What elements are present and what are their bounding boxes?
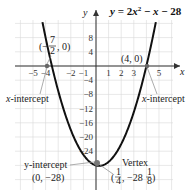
frac-num: 7 [50, 34, 55, 45]
vertex-point-close: ) [152, 172, 155, 184]
left-intercept-point: (− [39, 41, 48, 53]
svg-text:−8: −8 [83, 89, 93, 99]
vertex-point-mid: , −28 [122, 172, 143, 183]
vfrac-den: 4 [116, 175, 121, 186]
svg-text:−4: −4 [83, 75, 93, 85]
svg-text:−20: −20 [79, 132, 94, 142]
vertex-dot [94, 160, 100, 166]
y-intercept-point: (0, −28) [32, 172, 64, 184]
svg-text:8: 8 [89, 33, 94, 43]
svg-text:5: 5 [157, 68, 162, 78]
svg-text:−5: −5 [28, 68, 38, 78]
leader-line [100, 165, 113, 174]
parabola-chart: −5−4−2−1123584−4−8−12−16−20−24 y = 2x2 −… [0, 0, 193, 195]
svg-text:2: 2 [119, 68, 124, 78]
chart-title: y = 2x2 − x − 28 [108, 5, 182, 17]
right-intercept-point: (4, 0) [121, 53, 143, 65]
svg-text:4: 4 [89, 47, 94, 57]
left-intercept-rest: , 0) [57, 41, 70, 53]
frac-den: 2 [50, 45, 55, 56]
svg-text:−4: −4 [41, 68, 51, 78]
leader-line [147, 67, 157, 94]
vertex-label: Vertex [122, 157, 148, 168]
svg-text:−12: −12 [79, 104, 93, 114]
x-axis-label: x [179, 66, 185, 77]
svg-text:−2: −2 [66, 68, 76, 78]
y-axis-label: y [82, 7, 88, 18]
svg-text:1: 1 [106, 68, 111, 78]
left-intercept-dot [45, 64, 49, 68]
right-intercept-dot [145, 64, 149, 68]
svg-text:−16: −16 [79, 118, 94, 128]
y-intercept-label: y-intercept [24, 159, 68, 170]
x-intercept-right-label: x-intercept [141, 93, 185, 104]
svg-text:3: 3 [132, 68, 137, 78]
x-intercept-left-label: x-intercept [5, 93, 49, 104]
